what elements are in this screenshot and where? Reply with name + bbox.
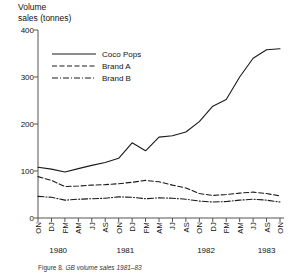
year-group-label: 1982 xyxy=(172,246,239,255)
x-tick-label: DJ xyxy=(128,222,137,232)
y-tick-label: 200 xyxy=(8,120,34,129)
caption-prefix: Figure 8. xyxy=(38,264,64,271)
x-tick-label: AS xyxy=(263,222,272,232)
figure-container: Volume sales (tonnes) 0100200300400 ONDJ… xyxy=(0,0,290,280)
x-tick-label: DJ xyxy=(47,222,56,232)
y-tick-label: 100 xyxy=(8,167,34,176)
x-tick-label: AM xyxy=(74,222,83,234)
x-tick-label: JJ xyxy=(168,222,177,230)
x-tick-label: AS xyxy=(101,222,110,232)
legend-key-line-dashdot xyxy=(52,73,96,83)
x-tick-label: ON xyxy=(195,222,204,234)
legend-label: Brand A xyxy=(102,62,130,71)
x-tick-label: FM xyxy=(61,222,70,233)
legend-item: Brand A xyxy=(52,60,141,72)
y-tick-label: 400 xyxy=(8,26,34,35)
legend-key-line-solid xyxy=(52,49,96,59)
chart-legend: Coco Pops Brand A Brand B xyxy=(52,48,141,84)
x-tick-label: FM xyxy=(222,222,231,233)
x-tick-label: AM xyxy=(236,222,245,234)
x-tick-label: AM xyxy=(155,222,164,234)
x-tick-label: ON xyxy=(34,222,43,234)
x-tick-label: JJ xyxy=(88,222,97,230)
x-tick-label: JJ xyxy=(249,222,258,230)
y-tick-label: 300 xyxy=(8,73,34,82)
y-axis-label: Volume sales (tonnes) xyxy=(18,2,71,24)
legend-item: Coco Pops xyxy=(52,48,141,60)
legend-key-line-dashed xyxy=(52,61,96,71)
x-tick-label: AS xyxy=(182,222,191,232)
year-group-label: 1983 xyxy=(253,246,280,255)
legend-label: Coco Pops xyxy=(102,50,141,59)
x-tick-label: DJ xyxy=(209,222,218,232)
x-tick-label: ON xyxy=(115,222,124,234)
legend-item: Brand B xyxy=(52,72,141,84)
legend-label: Brand B xyxy=(102,74,131,83)
figure-caption: Figure 8. GB volume sales 1981–83 xyxy=(38,264,142,271)
year-group-label: 1980 xyxy=(38,246,78,255)
year-group-label: 1981 xyxy=(92,246,159,255)
caption-title: GB volume sales 1981–83 xyxy=(65,264,141,271)
y-tick-label: 0 xyxy=(8,214,34,223)
x-tick-label: FM xyxy=(142,222,151,233)
x-tick-label: ON xyxy=(276,222,285,234)
